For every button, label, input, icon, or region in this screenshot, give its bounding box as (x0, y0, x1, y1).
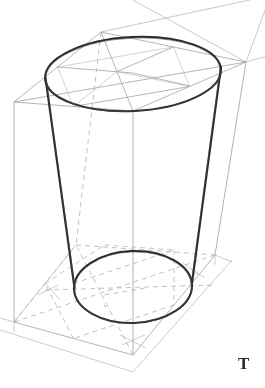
canvas-background (0, 0, 265, 388)
drawing-canvas: T (0, 0, 265, 388)
perspective-sketch (0, 0, 265, 388)
figure-label-t: T (238, 355, 250, 372)
